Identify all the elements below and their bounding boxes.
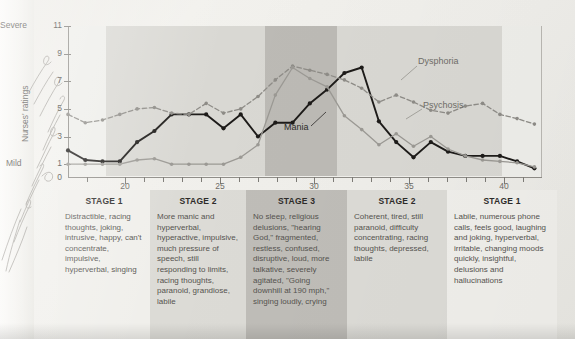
y-tick-label-1: 1 <box>22 158 62 168</box>
series-label-mania: Mania <box>284 122 309 132</box>
stage-title: STAGE 3 <box>253 196 340 206</box>
y-axis-title: Nurses' ratings <box>20 86 30 142</box>
stage-block-2: STAGE 2 More manic and hyperverbal, hype… <box>150 190 246 339</box>
stage-title: STAGE 1 <box>454 196 550 206</box>
stage-block-1: STAGE 1 Distractible, racing thoughts, j… <box>58 190 150 339</box>
stage-title: STAGE 1 <box>65 196 143 206</box>
page-bottom-shadow <box>0 323 575 339</box>
stage-block-4: STAGE 2 Coherent, tired, still paranoid,… <box>347 190 447 339</box>
stage-title: STAGE 2 <box>354 196 440 206</box>
y-tick-label-11: 11 <box>22 20 62 30</box>
stage-block-3: STAGE 3 No sleep, religious delusions, "… <box>246 190 347 339</box>
y-axis-caption-severe: Severe <box>0 20 27 30</box>
series-label-psychosis: Psychosis <box>423 100 464 110</box>
stage-body: Distractible, racing thoughts, joking, i… <box>65 212 143 276</box>
stage-body: No sleep, religious delusions, "hearing … <box>253 212 340 307</box>
stage-descriptions: STAGE 1 Distractible, racing thoughts, j… <box>0 190 575 339</box>
y-axis-caption-mild: Mild <box>6 158 22 168</box>
figure-page: 11 9 7 5 3 1 0 Severe Mild Nurses' ratin… <box>0 0 575 339</box>
stage-block-5: STAGE 1 Labile, numerous phone calls, fe… <box>447 190 557 339</box>
y-tick-label-7: 7 <box>22 75 62 85</box>
series-label-dysphoria: Dysphoria <box>418 56 459 66</box>
chart-plot-area: 11 9 7 5 3 1 0 Severe Mild Nurses' ratin… <box>68 26 542 178</box>
stage-body: Coherent, tired, still paranoid, difficu… <box>354 212 440 265</box>
y-tick-label-0: 0 <box>22 172 62 182</box>
y-tick-label-9: 9 <box>22 48 62 58</box>
series-lines <box>68 26 542 178</box>
stage-body: More manic and hyperverbal, hyperactive,… <box>157 212 239 307</box>
stage-title: STAGE 2 <box>157 196 239 206</box>
stage-body: Labile, numerous phone calls, feels good… <box>454 212 550 286</box>
